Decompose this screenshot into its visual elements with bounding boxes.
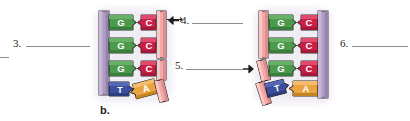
right-base-g-2: G [269, 38, 297, 53]
label-6-number: 6. [340, 38, 348, 49]
left-rung-3: G C [109, 61, 156, 76]
left-primer-backbone-pink-middle [157, 60, 166, 80]
figure-caption: b. [100, 105, 110, 116]
svg-text:C: C [146, 63, 153, 74]
right-base-g-3: G [269, 61, 297, 76]
figure-canvas: G C G [0, 0, 410, 121]
svg-text:A: A [303, 83, 310, 94]
left-base-g-3: G [109, 61, 137, 76]
blank-line-stub-center-upper[interactable] [203, 23, 243, 24]
label-5-number: 5. [175, 60, 183, 71]
svg-text:C: C [306, 40, 313, 51]
right-base-a-4: A [289, 81, 318, 96]
right-base-c-2: C [298, 38, 319, 53]
left-rung-2: G C [109, 38, 156, 53]
svg-text:G: G [117, 40, 124, 51]
left-base-t-4: T [109, 82, 133, 96]
svg-text:G: G [117, 63, 124, 74]
left-base-g-2: G [109, 38, 137, 53]
svg-text:T: T [117, 85, 123, 95]
right-primer-backbone-pink-top [259, 11, 268, 58]
svg-text:C: C [146, 40, 153, 51]
right-base-c-3: C [298, 61, 319, 76]
svg-text:G: G [277, 17, 284, 28]
dna-replication-diagram: G C G [0, 0, 410, 121]
label-5-blank-line[interactable] [186, 69, 243, 70]
svg-text:G: G [277, 63, 284, 74]
left-rung-1: G C [109, 15, 156, 30]
right-base-c-1: C [298, 15, 319, 30]
label-4-arrow-svg [165, 16, 179, 25]
right-template-backbone-purple [318, 11, 328, 98]
label-3-blank-line[interactable] [26, 46, 90, 47]
blank-line-stub-left-edge[interactable] [0, 57, 9, 58]
left-template-backbone-purple [99, 11, 109, 95]
label-4-number: 4. [181, 15, 189, 26]
label-5-arrow-svg [243, 64, 257, 74]
right-base-g-1: G [269, 15, 297, 30]
svg-text:G: G [277, 40, 284, 51]
label-6-blank-line[interactable] [352, 46, 408, 47]
svg-text:C: C [306, 17, 313, 28]
svg-text:C: C [306, 63, 313, 74]
svg-text:C: C [146, 17, 153, 28]
label-3-number: 3. [13, 38, 21, 49]
svg-text:G: G [117, 17, 124, 28]
left-base-g-1: G [109, 15, 137, 30]
